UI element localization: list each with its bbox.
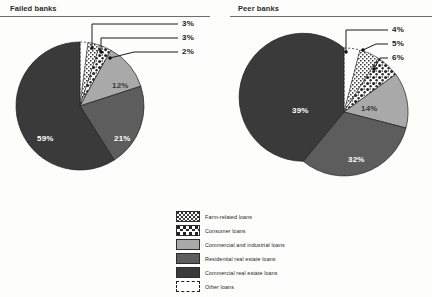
chart-panel-failed-banks: Failed banks [0, 0, 216, 215]
callout-label-consumer-left: 3% [182, 33, 194, 42]
callout-label-farm-related-left: 3% [182, 19, 194, 28]
page-title-failed-banks: Failed banks [10, 4, 57, 13]
legend-item-farm-related-loans: Farm-related loans [176, 210, 326, 223]
legend-label-commercial-and-industrial-loans: Commercial and industrial loans [205, 241, 285, 249]
callout-label-other-left: 2% [182, 47, 194, 56]
slice-label-commercial-industrial-left: 12% [112, 81, 129, 90]
title-divider-right [230, 16, 432, 17]
slice-label-commercial-real-estate-right: 39% [292, 106, 309, 115]
pie-chart-failed-banks [14, 36, 146, 202]
legend-swatch-consumer-loans [176, 225, 200, 236]
callout-label-other-right: 4% [392, 25, 404, 34]
legend-label-other-loans: Other loans [205, 283, 234, 291]
chart-panel-peer-banks: Peer banks [216, 0, 432, 215]
pie-chart-peer-banks [276, 40, 416, 206]
slice-label-residential-right: 32% [348, 155, 365, 164]
legend-swatch-other-loans [176, 281, 200, 292]
legend-item-consumer-loans: Consumer loans [176, 224, 326, 237]
legend-swatch-commercial-and-industrial-loans [176, 239, 200, 250]
title-divider-left [0, 16, 210, 17]
legend-label-farm-related-loans: Farm-related loans [205, 213, 252, 221]
legend-item-other-loans: Other loans [176, 280, 326, 293]
legend-swatch-farm-related-loans [176, 211, 200, 222]
slice-label-commercial-industrial-right: 14% [361, 104, 378, 113]
legend-item-commercial-real-estate-loans: Commercial real estate loans [176, 266, 326, 279]
legend-label-consumer-loans: Consumer loans [205, 227, 246, 235]
callout-label-consumer-right: 6% [392, 53, 404, 62]
legend-item-residential-real-estate-loans: Residential real estate loans [176, 252, 326, 265]
legend-label-residential-real-estate-loans: Residential real estate loans [205, 255, 276, 263]
callout-label-farm-related-right: 5% [392, 39, 404, 48]
legend-swatch-commercial-real-estate-loans [176, 267, 200, 278]
legend-label-commercial-real-estate-loans: Commercial real estate loans [205, 269, 278, 277]
legend: Farm-related loans Consumer loans Commer… [176, 210, 326, 294]
page-title-peer-banks: Peer banks [238, 4, 279, 13]
figure-root: Failed banks [0, 0, 432, 297]
legend-item-commercial-and-industrial-loans: Commercial and industrial loans [176, 238, 326, 251]
legend-swatch-residential-real-estate-loans [176, 253, 200, 264]
slice-label-residential-left: 21% [114, 134, 131, 143]
slice-label-commercial-real-estate-left: 59% [37, 134, 54, 143]
